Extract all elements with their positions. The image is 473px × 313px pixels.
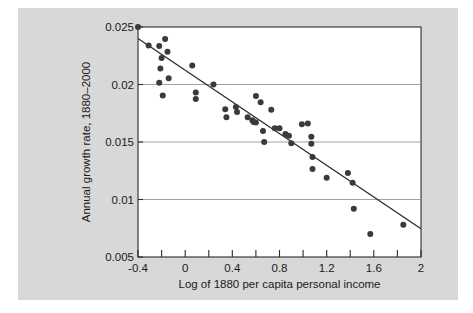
- y-axis-title: Annual growth rate, 1880–2000: [80, 62, 92, 222]
- x-tick-label: 1.2: [319, 262, 335, 274]
- data-point: [160, 92, 166, 98]
- x-axis-title: Log of 1880 per capita personal income: [178, 278, 380, 290]
- data-point: [222, 106, 228, 112]
- data-point: [350, 180, 356, 186]
- y-tick-label: 0.025: [105, 21, 134, 33]
- data-point: [308, 134, 314, 140]
- data-point: [258, 99, 264, 105]
- data-point: [210, 82, 216, 88]
- data-point: [268, 107, 274, 113]
- data-point: [253, 119, 259, 125]
- x-tick-label: -0.4: [128, 262, 148, 274]
- data-point: [345, 170, 351, 176]
- data-point: [156, 80, 162, 86]
- data-point: [162, 36, 168, 42]
- data-point: [159, 55, 165, 61]
- data-point: [260, 128, 266, 134]
- data-point: [286, 133, 292, 139]
- x-tick-label: 0.8: [272, 262, 288, 274]
- data-point: [367, 231, 373, 237]
- data-point: [253, 93, 259, 99]
- data-point: [166, 75, 172, 81]
- data-point: [310, 166, 316, 172]
- data-point: [189, 63, 195, 69]
- x-tick-labels: -0.4 0 0.4 0.8 1.2 1.6 2: [128, 262, 424, 274]
- y-tick-label: 0.01: [112, 194, 134, 206]
- data-point: [233, 104, 239, 110]
- figure-container: 0.025 0.02 0.015 0.01 0.005 -0.4 0 0.4 0…: [0, 0, 473, 313]
- x-tick-label: 1.6: [366, 262, 382, 274]
- y-tick-label: 0.02: [112, 79, 134, 91]
- x-tick-label: 0.4: [224, 262, 241, 274]
- data-point: [223, 114, 229, 120]
- x-tick-label: 0: [182, 262, 188, 274]
- data-point: [305, 121, 311, 127]
- data-point: [288, 140, 294, 146]
- data-point: [146, 42, 152, 48]
- y-tick-labels: 0.025 0.02 0.015 0.01 0.005: [105, 21, 134, 263]
- data-point: [193, 96, 199, 102]
- data-point: [261, 139, 267, 145]
- data-point: [310, 154, 316, 160]
- data-point: [324, 175, 330, 181]
- data-point: [400, 222, 406, 228]
- data-point: [299, 121, 305, 127]
- data-point: [234, 109, 240, 115]
- data-point: [308, 141, 314, 147]
- data-point: [351, 206, 357, 212]
- data-point: [193, 90, 199, 96]
- data-point: [164, 49, 170, 55]
- scatter-chart: 0.025 0.02 0.015 0.01 0.005 -0.4 0 0.4 0…: [0, 0, 473, 313]
- data-point: [156, 43, 162, 49]
- data-point: [135, 24, 141, 30]
- data-point: [277, 125, 283, 131]
- y-tick-label: 0.015: [105, 136, 134, 148]
- data-point: [157, 65, 163, 71]
- x-tick-label: 2: [418, 262, 424, 274]
